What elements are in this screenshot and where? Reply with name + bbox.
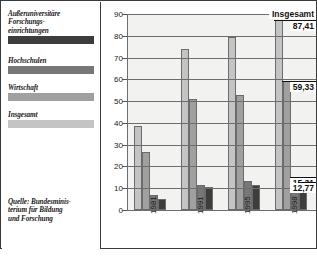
gridline [128,123,316,124]
y-axis-tick-label: 10 [105,184,123,193]
callout-title-insgesamt: Insgesamt [269,9,316,19]
legend-swatch-hochschulen [8,66,94,74]
x-axis-tick: 1998 [280,214,294,248]
gridline [128,188,316,189]
chart-screenshot: Außeruniversitäre Forschungs- einrichtun… [0,0,317,256]
bar-group [222,14,269,210]
y-axis-tick-label: 30 [105,140,123,149]
callout-value-außeruniversitäre: 12,77 [290,183,316,193]
legend-item-hochschulen: Hochschulen [8,57,94,74]
bars-container [128,14,316,210]
x-axis-tick-label: 1981 [149,196,158,214]
bar [158,199,166,210]
y-axis-tick-label: 40 [105,118,123,127]
gridline [128,101,316,102]
x-axis-tick: 1991 [186,214,200,248]
plot-area [127,14,316,211]
bar [205,187,213,210]
legend-swatch-ausseruniversitaere [8,36,94,44]
y-axis-tick-label: 60 [105,75,123,84]
x-axis-tick-label: 1998 [290,196,299,214]
bar [134,126,142,210]
bar-group [175,14,222,210]
legend-item-insgesamt: Insgesamt [8,111,94,128]
bar [236,95,244,210]
y-axis-tick-label: 80 [105,31,123,40]
x-axis-tick: 1981 [139,214,153,248]
legend-label-insgesamt: Insgesamt [8,111,94,119]
bar [189,99,197,210]
y-axis-tick-label: 0 [105,206,123,215]
callout-value-insgesamt: 87,41 [290,21,316,31]
plot-panel: 0102030405060708090 1981199119951998Insg… [101,2,317,249]
y-axis-tick-label: 50 [105,97,123,106]
bar [275,20,283,210]
bar [181,49,189,210]
x-axis-tick-label: 1991 [196,196,205,214]
gridline [128,58,316,59]
legend-label-hochschulen: Hochschulen [8,57,94,65]
gridline [128,166,316,167]
legend-label-wirtschaft: Wirtschaft [8,84,94,92]
source-note: Quelle: Bundesminis- terium für Bildung … [8,198,96,223]
legend-item-ausseruniversitaere: Außeruniversitäre Forschungs- einrichtun… [8,10,94,44]
gridline [128,36,316,37]
legend-item-wirtschaft: Wirtschaft [8,84,94,101]
y-axis-tick-label: 20 [105,162,123,171]
x-axis-tick: 1995 [233,214,247,248]
gridline [128,145,316,146]
legend-swatch-wirtschaft [8,93,94,101]
callout-value-wirtschaft: 59,33 [290,82,316,92]
chart-frame: Außeruniversitäre Forschungs- einrichtun… [0,0,317,249]
bar-group [128,14,175,210]
y-axis-tick-label: 90 [105,10,123,19]
y-axis: 0102030405060708090 [101,2,123,249]
legend-swatch-insgesamt [8,120,94,128]
x-axis-tick-label: 1995 [243,196,252,214]
legend-label-ausseruniversitaere: Außeruniversitäre Forschungs- einrichtun… [8,10,94,35]
legend-panel: Außeruniversitäre Forschungs- einrichtun… [2,2,101,249]
y-axis-tick-label: 70 [105,53,123,62]
